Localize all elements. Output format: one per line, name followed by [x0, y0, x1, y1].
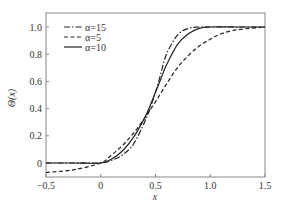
y-axis-label: Θ(x)	[6, 88, 18, 107]
x-tick-label: 1.0	[204, 180, 217, 191]
x-tick-label: 0	[98, 180, 103, 191]
y-tick-label: 0	[37, 158, 42, 169]
y-tick-label: 0.4	[30, 103, 43, 114]
y-tick-label: 0.8	[30, 49, 43, 60]
x-tick-label: −0.5	[37, 180, 55, 191]
series-line-2	[46, 27, 265, 173]
y-tick-label: 0.2	[30, 130, 43, 141]
x-tick-label: 1.5	[259, 180, 272, 191]
x-tick-label: 0.5	[149, 180, 162, 191]
chart: −0.500.51.01.5 00.20.40.60.81.0 α=15α=5α…	[0, 0, 281, 216]
legend-label: α=10	[85, 42, 106, 53]
y-tick-label: 0.6	[30, 76, 43, 87]
y-tick-label: 1.0	[30, 22, 43, 33]
x-axis-label: x	[152, 191, 158, 202]
